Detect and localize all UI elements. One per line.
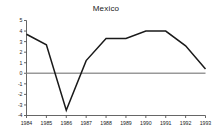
y-tick-label: 4 — [20, 28, 23, 34]
x-tick-label: 1992 — [180, 120, 192, 126]
x-tick-label: 1990 — [140, 120, 152, 126]
x-tick-label: 1993 — [200, 120, 212, 126]
x-tick-label: 1991 — [160, 120, 172, 126]
x-tick-label: 1986 — [61, 120, 73, 126]
y-tick-label: 3 — [20, 39, 23, 45]
x-tick-label: 1988 — [100, 120, 112, 126]
x-tick-label: 1984 — [21, 120, 33, 126]
line-chart-plot: 543210-1-2-3-4 1984198519861987198819891… — [0, 0, 212, 138]
series-line — [27, 31, 206, 110]
x-axis: 1984198519861987198819891990199119921993 — [21, 116, 212, 127]
y-tick-label: 5 — [20, 17, 23, 23]
y-tick-label: -3 — [18, 102, 23, 108]
x-tick-label: 1987 — [80, 120, 92, 126]
y-tick-label: -2 — [18, 91, 23, 97]
y-tick-label: -1 — [18, 81, 23, 87]
y-tick-label: 1 — [20, 60, 23, 66]
y-tick-label: -4 — [18, 112, 23, 118]
x-tick-label: 1989 — [120, 120, 132, 126]
chart-container: Mexico 543210-1-2-3-4 198419851986198719… — [0, 0, 212, 138]
data-series-mexico — [27, 31, 206, 110]
y-tick-label: 0 — [20, 70, 23, 76]
y-tick-label: 2 — [20, 49, 23, 55]
y-axis: 543210-1-2-3-4 — [18, 17, 27, 118]
x-tick-label: 1985 — [41, 120, 53, 126]
